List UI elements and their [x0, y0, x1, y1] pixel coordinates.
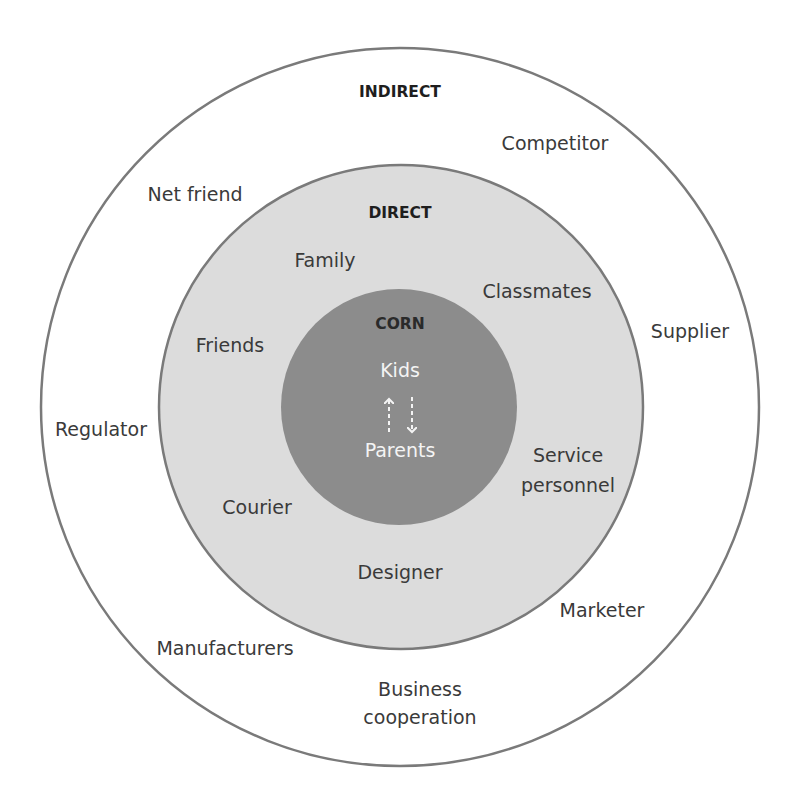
label-personnel: personnel: [521, 474, 615, 496]
direct-title: DIRECT: [368, 204, 432, 222]
label-manufacturers: Manufacturers: [156, 637, 293, 659]
label-supplier: Supplier: [651, 320, 729, 342]
label-parents: Parents: [365, 439, 436, 461]
label-family: Family: [294, 249, 355, 271]
indirect-title: INDIRECT: [359, 83, 441, 101]
label-marketer: Marketer: [560, 599, 645, 621]
label-friends: Friends: [196, 334, 264, 356]
label-designer: Designer: [357, 561, 442, 583]
label-service: Service: [533, 444, 603, 466]
label-business: Business: [378, 678, 462, 700]
label-kids: Kids: [380, 359, 420, 381]
stakeholder-diagram: INDIRECT Competitor Net friend Supplier …: [0, 0, 794, 803]
label-cooperation: cooperation: [363, 706, 476, 728]
label-net-friend: Net friend: [148, 183, 243, 205]
core-title: CORN: [375, 315, 424, 333]
label-classmates: Classmates: [482, 280, 591, 302]
label-regulator: Regulator: [55, 418, 147, 440]
label-competitor: Competitor: [502, 132, 609, 154]
label-courier: Courier: [222, 496, 292, 518]
